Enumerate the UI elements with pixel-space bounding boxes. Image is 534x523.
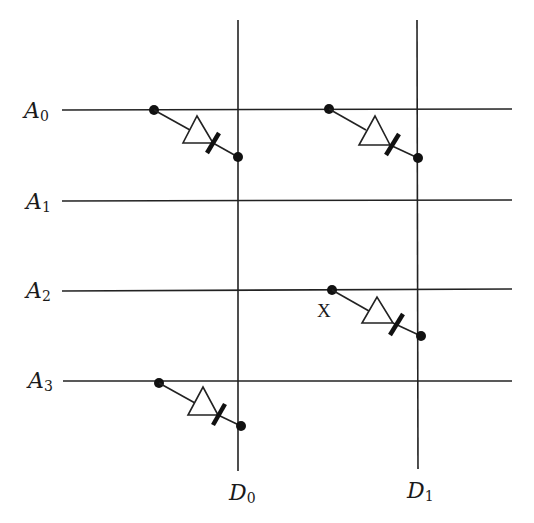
- label-a0: A0: [22, 98, 49, 124]
- diode-triangle-icon: [359, 116, 390, 145]
- label-a3: A3: [26, 368, 53, 394]
- data-line-d1: [417, 20, 418, 469]
- junction-dot: [416, 331, 426, 341]
- label-d0: D0: [228, 480, 256, 506]
- address-line-a2: [62, 289, 512, 291]
- label-a2: A2: [24, 278, 51, 304]
- junction-dot: [413, 153, 423, 163]
- diode-a3-d0: [154, 378, 246, 431]
- address-line-a1: [62, 200, 512, 201]
- diode-cathode-bar: [390, 314, 403, 335]
- diode-matrix-diagram: A0 A1 A2 A3 D0 D1 X: [0, 0, 534, 523]
- diode-a2-d1: [327, 285, 426, 341]
- diode-a0-d1: [324, 104, 423, 163]
- marker-x: X: [317, 300, 331, 321]
- address-line-a0: [62, 109, 512, 110]
- junction-dot: [233, 152, 243, 162]
- label-a1: A1: [24, 189, 51, 215]
- junction-dot: [236, 421, 246, 431]
- label-d1: D1: [406, 478, 434, 504]
- diode-a0-d0: [149, 105, 243, 162]
